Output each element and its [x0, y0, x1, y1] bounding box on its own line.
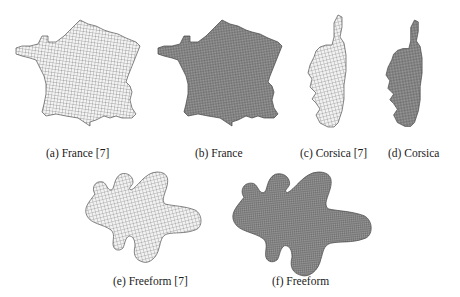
- caption-e: (e) Freeform [7]: [113, 276, 188, 288]
- caption-a: (a) France [7]: [46, 148, 109, 160]
- mesh-freeform-fine: [233, 172, 371, 276]
- caption-c: (c) Corsica [7]: [300, 148, 367, 160]
- mesh-corsica-coarse: [308, 15, 346, 127]
- caption-d: (d) Corsica: [388, 148, 439, 160]
- mesh-france-fine: [158, 20, 282, 126]
- caption-f: (f) Freeform: [272, 276, 329, 288]
- mesh-freeform-coarse: [86, 172, 201, 262]
- figure: (a) France [7] (b) France (c) Corsica [7…: [0, 0, 460, 297]
- mesh-corsica-fine: [386, 20, 422, 126]
- caption-b: (b) France: [195, 148, 243, 160]
- mesh-france-coarse: [16, 20, 140, 126]
